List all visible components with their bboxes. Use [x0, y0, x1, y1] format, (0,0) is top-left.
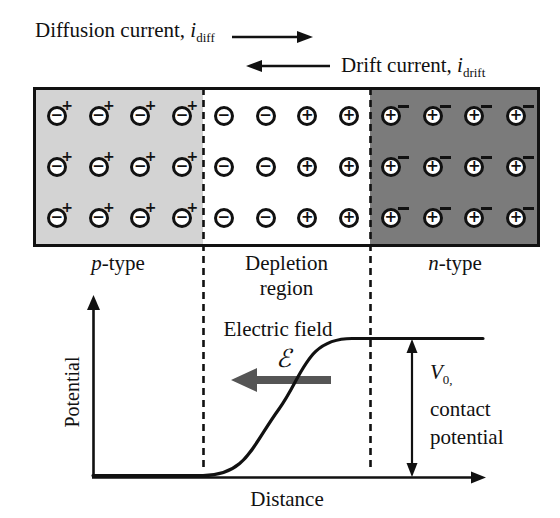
- minus-ion: −+: [172, 106, 192, 126]
- depletion-region-label: Depletion region: [203, 251, 370, 301]
- v0-subscript: 0,: [443, 372, 453, 387]
- minus-ion: −+: [130, 106, 150, 126]
- drift-current-label: Drift current, idrift: [341, 54, 485, 84]
- x-axis: [92, 472, 486, 484]
- plus-ion: +: [423, 106, 443, 126]
- plus-carrier: +: [186, 200, 198, 214]
- plus-glyph: +: [343, 210, 356, 225]
- plus-ion: +: [506, 106, 526, 126]
- plus-ion: +: [464, 208, 484, 228]
- plus-ion: +: [464, 106, 484, 126]
- minus-glyph: −: [259, 108, 272, 123]
- plus-glyph: +: [301, 159, 314, 174]
- plus-carrier: +: [145, 200, 157, 214]
- minus-ion: −: [256, 106, 276, 126]
- plus-ion: +: [297, 106, 317, 126]
- plus-carrier: +: [103, 149, 115, 163]
- minus-ion: −+: [47, 106, 67, 126]
- plus-carrier: +: [103, 200, 115, 214]
- minus-carrier: [481, 207, 492, 210]
- plus-ion: +: [297, 208, 317, 228]
- plus-ion: +: [339, 157, 359, 177]
- plus-glyph: +: [468, 108, 481, 123]
- p-symbol: p: [91, 251, 102, 275]
- minus-carrier: [481, 156, 492, 159]
- plus-ion: +: [339, 208, 359, 228]
- depletion-region: −−++−−++−−++: [203, 90, 370, 244]
- minus-carrier: [398, 156, 409, 159]
- y-axis-label: Potential: [61, 356, 84, 427]
- plus-carrier: +: [61, 149, 73, 163]
- plus-carrier: +: [61, 200, 73, 214]
- junction-box: −+−+−+−+−+−+−+−+−+−+−+−+ −−++−−++−−++ ++…: [33, 87, 540, 247]
- minus-carrier: [440, 207, 451, 210]
- plus-ion: +: [381, 157, 401, 177]
- plus-glyph: +: [385, 210, 398, 225]
- plus-glyph: +: [510, 210, 523, 225]
- minus-carrier: [440, 105, 451, 108]
- minus-carrier: [398, 105, 409, 108]
- diffusion-current-label: Diffusion current, idiff: [35, 19, 215, 49]
- plus-ion: +: [381, 106, 401, 126]
- minus-carrier: [523, 105, 534, 108]
- electric-field-symbol: ℰ: [276, 344, 291, 373]
- plus-glyph: +: [426, 108, 439, 123]
- minus-ion: −+: [89, 106, 109, 126]
- plus-glyph: +: [426, 210, 439, 225]
- minus-glyph: −: [218, 210, 231, 225]
- minus-ion: −: [256, 208, 276, 228]
- p-type-region: −+−+−+−+−+−+−+−+−+−+−+−+: [36, 90, 203, 244]
- minus-ion: −+: [47, 208, 67, 228]
- minus-ion: −+: [172, 208, 192, 228]
- potential-word: potential: [430, 423, 503, 452]
- minus-carrier: [523, 207, 534, 210]
- x-axis-label: Distance: [93, 487, 481, 512]
- minus-glyph: −: [259, 159, 272, 174]
- plus-carrier: +: [186, 149, 198, 163]
- v0-symbol-line: V0,: [430, 358, 503, 395]
- plus-ion: +: [339, 106, 359, 126]
- minus-carrier: [523, 156, 534, 159]
- minus-ion: −: [256, 157, 276, 177]
- y-axis: [87, 295, 100, 478]
- plus-carrier: +: [145, 149, 157, 163]
- plus-carrier: +: [186, 98, 198, 112]
- p-type-label: p-type: [33, 251, 203, 276]
- minus-ion: −+: [47, 157, 67, 177]
- plus-glyph: +: [468, 210, 481, 225]
- minus-glyph: −: [218, 159, 231, 174]
- plus-glyph: +: [385, 159, 398, 174]
- minus-carrier: [398, 207, 409, 210]
- plus-glyph: +: [343, 108, 356, 123]
- plus-glyph: +: [510, 159, 523, 174]
- diffusion-current-subscript: diff: [196, 30, 215, 45]
- plus-ion: +: [506, 208, 526, 228]
- plus-glyph: +: [468, 159, 481, 174]
- minus-glyph: −: [259, 210, 272, 225]
- n-type-region: ++++++++++++: [370, 90, 537, 244]
- contact-word: contact: [430, 395, 503, 424]
- drift-current-text: Drift current,: [341, 53, 457, 77]
- n-type-suffix: -type: [439, 251, 482, 275]
- electric-field-label: Electric field: [198, 317, 358, 342]
- minus-glyph: −: [218, 108, 231, 123]
- plus-ion: +: [423, 157, 443, 177]
- plus-glyph: +: [385, 108, 398, 123]
- minus-ion: −+: [130, 208, 150, 228]
- minus-ion: −: [214, 157, 234, 177]
- plus-ion: +: [297, 157, 317, 177]
- minus-ion: −+: [89, 157, 109, 177]
- minus-ion: −: [214, 208, 234, 228]
- minus-ion: −+: [89, 208, 109, 228]
- contact-potential-label: V0, contact potential: [430, 358, 503, 452]
- drift-arrow-icon: [246, 60, 330, 72]
- diffusion-current-text: Diffusion current,: [35, 18, 190, 42]
- p-type-suffix: -type: [102, 251, 145, 275]
- drift-current-subscript: drift: [463, 65, 485, 80]
- depletion-label-line1: Depletion: [203, 251, 370, 276]
- diffusion-arrow-icon: [232, 31, 313, 43]
- minus-carrier: [440, 156, 451, 159]
- plus-ion: +: [423, 208, 443, 228]
- plus-glyph: +: [301, 210, 314, 225]
- depletion-label-line2: region: [203, 276, 370, 301]
